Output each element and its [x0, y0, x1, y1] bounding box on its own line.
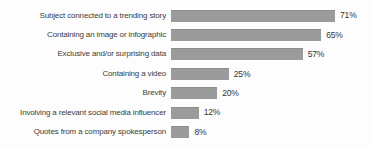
bar [171, 68, 229, 80]
bar [171, 126, 189, 138]
value-label: 12% [204, 108, 221, 117]
value-label: 8% [194, 128, 206, 137]
value-label: 25% [234, 70, 251, 79]
bar-row: Containing a video 25% [0, 64, 371, 83]
bar [171, 87, 217, 99]
category-label: Involving a relevant social media influe… [0, 109, 166, 117]
bar-row: Containing an image or infographic 65% [0, 25, 371, 44]
category-label: Quotes from a company spokesperson [0, 128, 166, 136]
bar [171, 29, 321, 41]
category-label: Subject connected to a trending story [0, 12, 166, 20]
value-label: 20% [222, 89, 239, 98]
bar-row: Involving a relevant social media influe… [0, 103, 371, 122]
value-label: 65% [326, 31, 343, 40]
bar-row: Quotes from a company spokesperson 8% [0, 122, 371, 141]
category-label: Exclusive and/or surprising data [0, 50, 166, 58]
bar-chart: Subject connected to a trending story 71… [0, 0, 371, 148]
category-label: Brevity [0, 89, 166, 97]
category-label: Containing an image or infographic [0, 31, 166, 39]
category-label: Containing a video [0, 70, 166, 78]
value-label: 71% [340, 11, 357, 20]
bar-row: Exclusive and/or surprising data 57% [0, 45, 371, 64]
bar [171, 10, 335, 22]
bar-row: Subject connected to a trending story 71… [0, 6, 371, 25]
bar-row: Brevity 20% [0, 84, 371, 103]
value-label: 57% [308, 50, 325, 59]
bar [171, 107, 199, 119]
bar [171, 48, 303, 60]
